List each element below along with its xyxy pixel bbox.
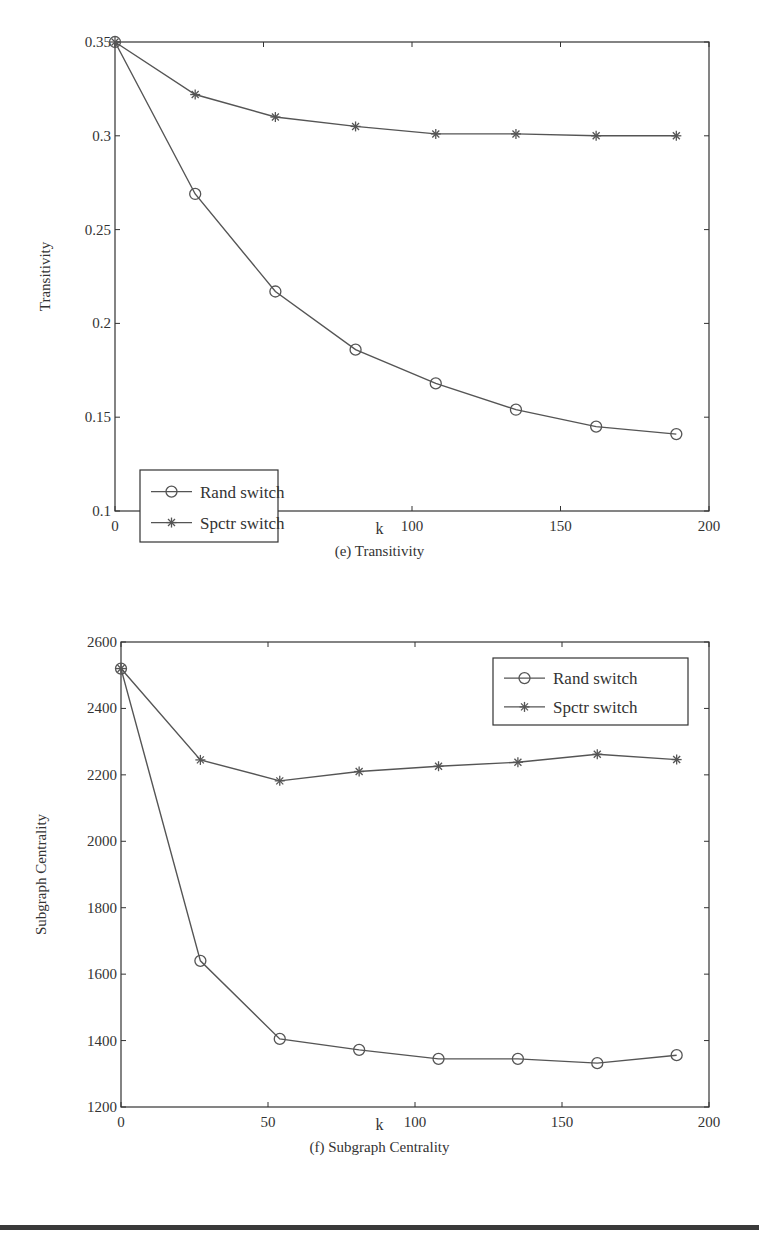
asterisk-marker-icon [511,129,521,139]
asterisk-marker-icon [672,755,682,765]
subgraph-centrality-chart: 0501001502001200140016001800200022002400… [0,600,759,1200]
transitivity-chart: 0501001502000.10.150.20.250.30.35Transit… [0,0,759,600]
asterisk-marker-icon [190,90,200,100]
y-tick-label: 0.35 [85,34,111,50]
figure-caption: (e) Transitivity [0,543,759,560]
legend-label: Rand switch [200,483,285,502]
asterisk-marker-icon [351,121,361,131]
y-tick-label: 0.15 [85,409,111,425]
figure-caption: (f) Subgraph Centrality [0,1139,759,1156]
asterisk-marker-icon [110,37,120,47]
y-tick-label: 1400 [87,1033,117,1049]
y-tick-label: 0.2 [92,315,111,331]
y-tick-label: 2200 [87,767,117,783]
y-tick-label: 0.3 [92,128,111,144]
y-tick-label: 2400 [87,700,117,716]
figure-transitivity: 0501001502000.10.150.20.250.30.35Transit… [0,0,759,600]
y-tick-label: 2600 [87,634,117,650]
page-rule [0,1225,759,1230]
legend-label: Rand switch [553,669,638,688]
asterisk-marker-icon [592,749,602,759]
y-tick-label: 1600 [87,966,117,982]
y-axis-label: Transitivity [37,241,53,311]
legend: Rand switchSpctr switch [493,658,688,725]
asterisk-marker-icon [434,761,444,771]
y-tick-label: 0.1 [92,503,111,519]
asterisk-marker-icon [513,757,523,767]
x-axis-label: k [0,520,759,538]
plot-frame [115,42,709,511]
series-spctr-switch [110,37,681,141]
y-tick-label: 1200 [87,1099,117,1115]
legend-label: Spctr switch [553,698,638,717]
asterisk-marker-icon [354,767,364,777]
x-axis-label: k [0,1116,759,1134]
y-tick-label: 0.25 [85,222,111,238]
asterisk-marker-icon [275,776,285,786]
y-tick-label: 2000 [87,833,117,849]
y-tick-label: 1800 [87,900,117,916]
asterisk-marker-icon [431,129,441,139]
y-axis-label: Subgraph Centrality [33,813,49,935]
asterisk-marker-icon [671,131,681,141]
figure-subgraph-centrality: 0501001502001200140016001800200022002400… [0,600,759,1200]
asterisk-marker-icon [270,112,280,122]
asterisk-marker-icon [591,131,601,141]
